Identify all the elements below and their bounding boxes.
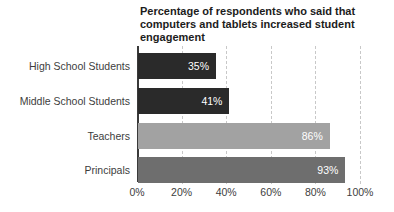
bar-value-label: 93% xyxy=(317,157,338,183)
x-tick-label: 40% xyxy=(216,186,237,198)
bar-value-label: 35% xyxy=(188,53,209,79)
x-tick-label: 0% xyxy=(129,186,144,198)
bar-value-label: 41% xyxy=(201,88,222,114)
x-tick-label: 20% xyxy=(171,186,192,198)
category-label: Principals xyxy=(0,157,130,183)
bar: 35% xyxy=(138,53,216,79)
category-label: Middle School Students xyxy=(0,88,130,114)
category-label: Teachers xyxy=(0,123,130,149)
gridline xyxy=(360,46,361,184)
x-tick-label: 100% xyxy=(347,186,374,198)
bar: 93% xyxy=(138,157,345,183)
bar: 86% xyxy=(138,123,330,149)
x-tick-label: 60% xyxy=(260,186,281,198)
category-label: High School Students xyxy=(0,53,130,79)
plot-area: 0%20%40%60%80%100%High School Students35… xyxy=(0,0,394,212)
bar: 41% xyxy=(138,88,229,114)
bar-chart: Percentage of respondents who said that … xyxy=(0,0,394,212)
x-tick-label: 80% xyxy=(305,186,326,198)
bar-value-label: 86% xyxy=(302,123,323,149)
